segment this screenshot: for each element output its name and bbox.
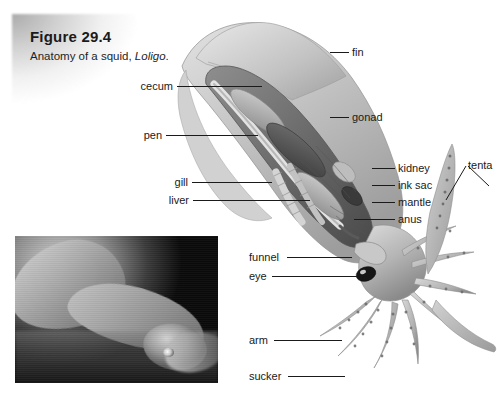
label-tentacles: tenta: [468, 160, 492, 171]
label-pen: pen: [144, 130, 162, 141]
leader-line-liver: [193, 200, 310, 201]
leader-line-fin: [330, 52, 349, 53]
leader-line-sucker: [288, 376, 345, 377]
arm-1: [320, 296, 376, 336]
leader-line-arm: [274, 340, 342, 341]
label-eye: eye: [249, 271, 267, 282]
arm-3: [374, 302, 398, 368]
figure-caption: Anatomy of a squid, Loligo.: [30, 50, 169, 62]
leader-line-funnel: [287, 257, 352, 258]
leader-line-kidney: [372, 168, 395, 169]
photo-squid-eye: [163, 348, 174, 357]
arm-4: [402, 300, 419, 364]
label-funnel: funnel: [249, 252, 279, 263]
tentacle-lower: [432, 300, 496, 352]
label-liver: liver: [169, 195, 189, 206]
leader-line-ink-sac: [372, 185, 395, 186]
label-arm: arm: [249, 335, 268, 346]
arm-6: [414, 278, 476, 294]
figure-panel: Figure 29.4 Anatomy of a squid, Loligo. …: [0, 0, 497, 400]
leader-line-mantle: [372, 202, 395, 203]
leader-line-pen: [166, 135, 258, 136]
label-cecum: cecum: [141, 81, 173, 92]
label-mantle: mantle: [398, 197, 431, 208]
caption-prefix: Anatomy of a squid,: [30, 50, 135, 62]
label-sucker: sucker: [249, 371, 281, 382]
leader-line-eye: [272, 276, 357, 277]
squid-photograph: [15, 236, 218, 383]
label-gonad: gonad: [352, 112, 383, 123]
leader-line-gill: [192, 182, 272, 183]
leader-line-anus: [354, 219, 395, 220]
label-anus: anus: [398, 214, 422, 225]
caption-suffix: .: [166, 50, 169, 62]
leader-line-cecum: [177, 86, 262, 87]
label-fin: fin: [352, 47, 364, 58]
label-kidney: kidney: [398, 163, 430, 174]
leader-line-gonad: [330, 117, 349, 118]
figure-number: Figure 29.4: [30, 28, 111, 45]
caption-species-name: Loligo: [135, 50, 166, 62]
label-gill: gill: [175, 177, 188, 188]
label-ink-sac: ink sac: [398, 180, 432, 191]
